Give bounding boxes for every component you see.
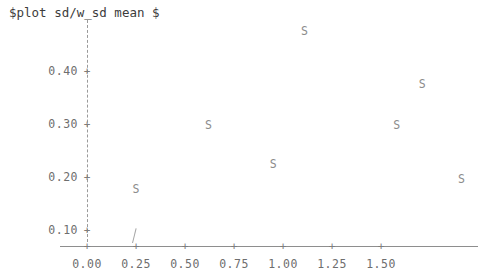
x-tick-label: 0.00 [72,257,102,271]
x-tick-mark: + [133,241,140,252]
x-tick-mark: + [231,241,238,252]
x-tick-mark: + [280,241,287,252]
x-tick-label: 0.50 [170,257,200,271]
x-tick-label: 1.50 [366,257,396,271]
data-point-marker: S [133,185,140,197]
x-tick-mark: + [84,241,91,252]
plot-canvas: $plot sd/w_sd mean $ +0.10+0.20+0.30+0.4… [0,0,486,279]
data-point-marker: S [205,120,212,132]
x-tick-label: 1.25 [317,257,347,271]
y-tick-label: 0.10 [48,223,78,237]
data-point-marker: S [419,79,426,91]
data-point-marker: S [270,159,277,171]
data-point-marker: S [393,120,400,132]
x-tick-mark: + [329,241,336,252]
x-tick-mark: + [378,241,385,252]
data-point-marker: S [301,27,308,39]
x-tick-label: 0.25 [121,257,151,271]
y-axis-line [87,20,88,242]
x-tick-label: 1.00 [268,257,298,271]
y-tick-label: 0.20 [48,170,78,184]
y-tick-label: 0.40 [48,64,78,78]
x-tick-mark: + [182,241,189,252]
plot-title: $plot sd/w_sd mean $ [9,5,160,20]
data-point-marker: S [458,174,465,186]
y-tick-mark: + [84,172,91,183]
y-tick-mark: + [84,225,91,236]
x-axis-line [60,246,478,247]
y-tick-mark: + [84,119,91,130]
x-tick-label: 0.75 [219,257,249,271]
y-tick-label: 0.30 [48,117,78,131]
y-tick-mark: + [84,66,91,77]
